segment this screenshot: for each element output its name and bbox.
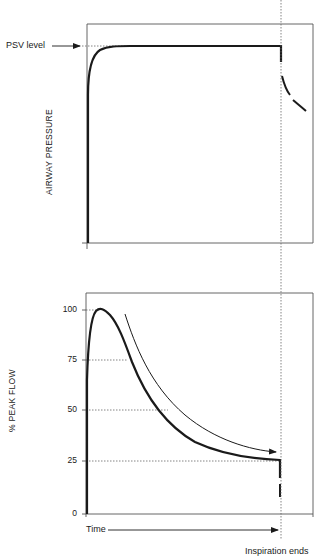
flow-reference-lines xyxy=(86,310,279,461)
top-panel-frame xyxy=(82,24,313,249)
y-tick-50: 50 xyxy=(57,404,77,414)
inspiration-ends-label: Inspiration ends xyxy=(245,546,309,556)
y-tick-75: 75 xyxy=(57,354,77,364)
flow-curve xyxy=(87,309,280,514)
flow-y-ticks xyxy=(82,310,86,461)
airway-pressure-release-dashed xyxy=(282,76,290,95)
y-tick-25: 25 xyxy=(57,455,77,465)
time-axis-label: Time xyxy=(86,524,106,534)
y-tick-100: 100 xyxy=(57,304,77,314)
decay-direction-arrow xyxy=(125,314,276,452)
airway-pressure-release-dashed-2 xyxy=(293,100,306,111)
psv-level-label: PSV level xyxy=(6,40,45,50)
diagram-canvas xyxy=(0,0,315,560)
peak-flow-axis-label: % PEAK FLOW xyxy=(7,369,17,432)
y-tick-0: 0 xyxy=(57,508,77,518)
airway-pressure-axis-label: AIRWAY PRESSURE xyxy=(44,109,54,195)
airway-pressure-curve xyxy=(88,46,281,243)
